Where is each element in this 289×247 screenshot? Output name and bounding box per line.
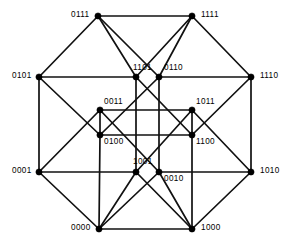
graph-edge <box>98 16 136 77</box>
graph-vertex <box>36 74 42 80</box>
vertex-label: 0010 <box>164 175 184 183</box>
graph-vertex <box>95 13 101 19</box>
graph-edge <box>39 16 98 77</box>
graph-edge <box>39 110 100 172</box>
graph-edge <box>192 16 251 77</box>
vertex-label: 1001 <box>133 158 153 166</box>
graph-edge <box>99 172 159 229</box>
vertex-label: 1111 <box>201 11 219 19</box>
hypercube-diagram: 0111111101011110000110100000100011010110… <box>0 0 289 247</box>
graph-vertex <box>156 74 162 80</box>
vertex-label: 1000 <box>201 224 221 232</box>
graph-vertex <box>248 169 254 175</box>
graph-vertex <box>189 226 195 232</box>
vertex-label: 0100 <box>104 138 124 146</box>
graph-edge <box>192 172 251 229</box>
graph-vertex <box>36 169 42 175</box>
vertex-label: 1010 <box>260 167 280 175</box>
vertex-label: 0101 <box>12 72 32 80</box>
hypercube-graph-svg <box>0 0 289 247</box>
graph-edge <box>136 77 192 135</box>
graph-edge <box>39 172 99 229</box>
graph-vertex <box>97 107 103 113</box>
vertex-label: 1100 <box>196 138 215 146</box>
graph-vertex <box>97 132 103 138</box>
graph-vertex <box>189 107 195 113</box>
vertex-label: 0111 <box>71 11 89 19</box>
vertex-label: 0001 <box>12 167 32 175</box>
vertex-label: 0110 <box>164 64 183 72</box>
vertex-label: 1110 <box>260 72 278 80</box>
edge-layer <box>39 16 251 229</box>
graph-vertex <box>248 74 254 80</box>
graph-vertex <box>133 74 139 80</box>
graph-vertex <box>189 13 195 19</box>
graph-vertex <box>189 132 195 138</box>
vertex-label: 1011 <box>196 98 215 106</box>
graph-vertex <box>156 169 162 175</box>
graph-edge <box>39 77 100 135</box>
vertex-label: 0000 <box>71 224 91 232</box>
graph-edge <box>99 135 100 229</box>
graph-edge <box>99 172 136 229</box>
graph-vertex <box>133 169 139 175</box>
vertex-label: 0011 <box>104 98 123 106</box>
graph-vertex <box>96 226 102 232</box>
vertex-label: 1101 <box>133 64 152 72</box>
